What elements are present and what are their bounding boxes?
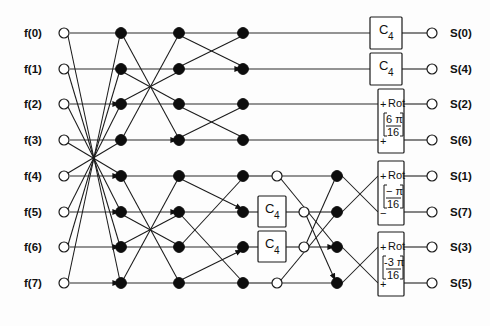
lower-open-nodes	[272, 171, 309, 288]
input-label-f0: f(0)	[24, 27, 42, 39]
stage1-node[interactable]	[116, 207, 127, 218]
input-node-f0[interactable]	[59, 28, 69, 38]
c4-block-d-sub: 4	[274, 245, 280, 256]
stage1-node[interactable]	[116, 28, 127, 39]
stage2-node[interactable]	[174, 64, 185, 75]
stage2-node[interactable]	[174, 171, 185, 182]
output-node-s3[interactable]	[427, 242, 437, 252]
stage3-node[interactable]	[238, 135, 249, 146]
rot-block-a-label: Rot	[388, 97, 405, 109]
stage3-node[interactable]	[238, 99, 249, 110]
stage3-nodes	[238, 28, 249, 289]
rot-block-b-top-sign: +	[380, 170, 386, 182]
rot-block-b[interactable]: + Rot − π 16 −	[378, 161, 405, 225]
stage1-node[interactable]	[116, 64, 127, 75]
lower-stage-node[interactable]	[332, 242, 343, 253]
output-nodes	[427, 28, 437, 288]
rot-block-a-bottom-sign: +	[380, 135, 386, 147]
lower-filled-nodes	[332, 171, 343, 289]
c4-block-b[interactable]: C 4	[370, 53, 402, 85]
input-labels: f(0) f(1) f(2) f(3) f(4) f(5) f(6) f(7)	[24, 27, 42, 289]
rot-block-c-top-sign: +	[380, 241, 386, 253]
stage4-upper-edges	[246, 33, 378, 140]
output-label-s3: S(3)	[450, 241, 472, 253]
c4-block-c-main: C	[265, 201, 274, 216]
input-node-f1[interactable]	[59, 64, 69, 74]
stage3-node[interactable]	[238, 278, 249, 289]
input-node-f4[interactable]	[59, 171, 69, 181]
rot-block-a-denominator: 16	[387, 126, 399, 138]
lower-stage-node[interactable]	[332, 207, 343, 218]
stage2-node[interactable]	[174, 135, 185, 146]
stage1-node[interactable]	[116, 171, 127, 182]
input-label-f6: f(6)	[24, 241, 42, 253]
output-labels: S(0) S(4) S(2) S(6) S(1) S(7) S(3) S(5)	[450, 27, 472, 289]
stage3-node[interactable]	[238, 64, 249, 75]
mid-open-node[interactable]	[272, 278, 282, 288]
c4-block-a-sub: 4	[388, 31, 394, 42]
c4-block-c[interactable]: C 4	[258, 196, 286, 227]
stage2-node[interactable]	[174, 242, 185, 253]
stage1-edges	[68, 33, 120, 283]
c4-block-b-sub: 4	[388, 67, 394, 78]
stage3-node[interactable]	[238, 207, 249, 218]
mid-open-node[interactable]	[272, 171, 282, 181]
signal-flow-svg: C 4 C 4 C 4 C 4 + Rot 6 π 16 + + Rot − π…	[0, 0, 490, 326]
rot-block-a-numerator: 6 π	[386, 113, 403, 125]
lower-stage-node[interactable]	[332, 278, 343, 289]
output-node-s6[interactable]	[427, 135, 437, 145]
rot-block-c-label: Rot	[388, 240, 405, 252]
output-label-s6: S(6)	[450, 134, 472, 146]
stage3-node[interactable]	[238, 28, 249, 39]
mid-open-node[interactable]	[299, 242, 309, 252]
c4-block-a-main: C	[379, 22, 388, 37]
rot-block-b-numerator: − π	[386, 185, 403, 197]
output-node-s4[interactable]	[427, 64, 437, 74]
output-node-s1[interactable]	[427, 171, 437, 181]
stage1-node[interactable]	[116, 135, 127, 146]
stage3-edges	[181, 33, 242, 283]
input-label-f7: f(7)	[24, 277, 42, 289]
input-label-f2: f(2)	[24, 98, 42, 110]
input-node-f6[interactable]	[59, 242, 69, 252]
c4-block-a[interactable]: C 4	[370, 17, 402, 49]
input-node-f5[interactable]	[59, 207, 69, 217]
stage2-node[interactable]	[174, 278, 185, 289]
output-node-s0[interactable]	[427, 28, 437, 38]
output-node-s7[interactable]	[427, 207, 437, 217]
output-edges	[402, 33, 427, 283]
input-label-f5: f(5)	[24, 206, 42, 218]
stage2-node[interactable]	[174, 99, 185, 110]
stage1-node[interactable]	[116, 278, 127, 289]
output-node-s5[interactable]	[427, 278, 437, 288]
rot-block-c-denominator: 16	[387, 269, 399, 281]
input-label-f3: f(3)	[24, 134, 42, 146]
stage1-node[interactable]	[116, 99, 127, 110]
rot-block-c[interactable]: + Rot -3 π 16 +	[378, 232, 405, 296]
output-label-s2: S(2)	[450, 98, 472, 110]
stage3-node[interactable]	[238, 171, 249, 182]
stage2-edges	[123, 33, 178, 283]
stage2-node[interactable]	[174, 207, 185, 218]
c4-block-b-main: C	[379, 58, 388, 73]
mid-open-node[interactable]	[299, 207, 309, 217]
stage2-nodes	[174, 28, 185, 289]
input-node-f3[interactable]	[59, 135, 69, 145]
c4-block-d[interactable]: C 4	[258, 231, 286, 262]
stage1-node[interactable]	[116, 242, 127, 253]
flow-graph-canvas: C 4 C 4 C 4 C 4 + Rot 6 π 16 + + Rot − π…	[0, 0, 490, 326]
input-label-f4: f(4)	[24, 170, 42, 182]
stage3-node[interactable]	[238, 242, 249, 253]
lower-stage-node[interactable]	[332, 171, 343, 182]
rot-block-a-top-sign: +	[380, 98, 386, 110]
c4-block-d-main: C	[265, 236, 274, 251]
output-node-s2[interactable]	[427, 99, 437, 109]
rot-block-c-numerator: -3 π	[384, 256, 405, 268]
stage2-node[interactable]	[174, 28, 185, 39]
rot-block-a[interactable]: + Rot 6 π 16 +	[378, 89, 405, 153]
input-nodes	[59, 28, 69, 288]
input-node-f2[interactable]	[59, 99, 69, 109]
input-node-f7[interactable]	[59, 278, 69, 288]
output-label-s1: S(1)	[450, 170, 472, 182]
input-label-f1: f(1)	[24, 63, 42, 75]
